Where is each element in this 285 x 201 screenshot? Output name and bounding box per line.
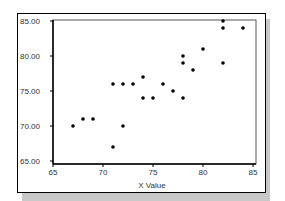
scatter-plot: 65.0070.0075.0080.0085.00 6570758085 X V…: [0, 0, 285, 201]
x-tick-label: 80: [199, 168, 208, 177]
data-point: [91, 117, 95, 121]
data-point: [141, 96, 145, 100]
data-point: [221, 26, 225, 30]
x-axis-label: X Value: [138, 181, 166, 190]
data-points: [71, 19, 245, 149]
data-point: [141, 75, 145, 79]
x-axis-ticks: 6570758085: [49, 164, 258, 177]
data-point: [201, 47, 205, 51]
data-point: [111, 82, 115, 86]
data-point: [181, 96, 185, 100]
plot-area-border: [53, 20, 256, 164]
data-point: [71, 124, 75, 128]
x-tick-label: 85: [249, 168, 258, 177]
y-tick-label: 65.00: [20, 157, 41, 166]
x-tick-label: 75: [149, 168, 158, 177]
data-point: [221, 61, 225, 65]
data-point: [121, 124, 125, 128]
data-point: [121, 82, 125, 86]
data-point: [81, 117, 85, 121]
data-point: [161, 82, 165, 86]
data-point: [151, 96, 155, 100]
y-tick-label: 80.00: [20, 52, 41, 61]
data-point: [171, 89, 175, 93]
x-tick-label: 65: [49, 168, 58, 177]
y-tick-label: 75.00: [20, 87, 41, 96]
data-point: [191, 68, 195, 72]
data-point: [181, 54, 185, 58]
x-tick-label: 70: [99, 168, 108, 177]
data-point: [181, 61, 185, 65]
plot-axes: [53, 20, 256, 164]
y-axis-ticks: 65.0070.0075.0080.0085.00: [20, 17, 53, 166]
y-tick-label: 85.00: [20, 17, 41, 26]
data-point: [221, 19, 225, 23]
data-point: [131, 82, 135, 86]
y-tick-label: 70.00: [20, 122, 41, 131]
data-point: [241, 26, 245, 30]
data-point: [111, 145, 115, 149]
